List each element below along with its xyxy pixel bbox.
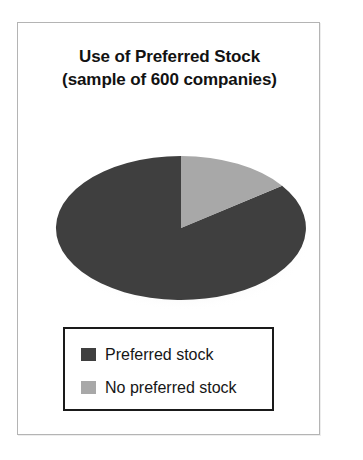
chart-title-line-1: Use of Preferred Stock [18,45,321,68]
legend-label-no-preferred-stock: No preferred stock [105,380,237,396]
chart-title-line-2: (sample of 600 companies) [18,68,321,91]
legend-item-no-preferred-stock[interactable]: No preferred stock [81,371,272,404]
chart-title: Use of Preferred Stock (sample of 600 co… [18,45,321,91]
legend-swatch-no-preferred-stock [81,381,96,394]
legend-label-preferred-stock: Preferred stock [105,347,213,363]
pie-chart-plot-area [18,119,321,319]
figure-frame: Use of Preferred Stock (sample of 600 co… [17,22,320,435]
chart-legend: Preferred stock No preferred stock [63,327,274,411]
legend-item-preferred-stock[interactable]: Preferred stock [81,338,272,371]
legend-swatch-preferred-stock [81,348,96,361]
pie-chart-svg [18,119,321,319]
